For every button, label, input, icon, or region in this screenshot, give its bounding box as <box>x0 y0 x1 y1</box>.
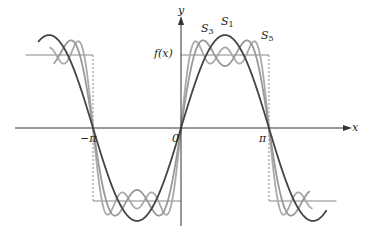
pi-tick: π <box>259 133 266 144</box>
s1-label: S1 <box>221 16 234 29</box>
plot-canvas <box>0 0 369 239</box>
x-axis-label: x <box>352 122 358 133</box>
neg-pi-tick: −π <box>80 133 96 144</box>
y-axis-arrow-icon <box>178 16 184 25</box>
zero-tick: 0 <box>172 133 179 144</box>
fourier-diagram: y x f(x) −π 0 π S3 S1 S5 <box>0 0 369 239</box>
s5-label: S5 <box>261 30 274 43</box>
x-axis-arrow-icon <box>343 125 352 131</box>
f-label: f(x) <box>154 48 173 59</box>
y-axis-label: y <box>178 5 184 16</box>
s3-label: S3 <box>201 23 214 36</box>
